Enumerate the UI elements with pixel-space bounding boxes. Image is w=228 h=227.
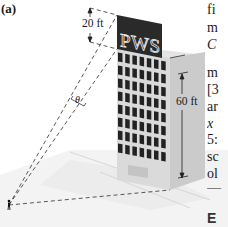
text-fragment: m xyxy=(207,66,218,80)
cropped-text-column: fi m C m [3 ar x 5: sc ol — E xyxy=(207,0,228,227)
text-fragment: ar xyxy=(207,100,218,114)
text-fragment: C xyxy=(207,38,216,52)
text-fragment: sc xyxy=(207,150,219,164)
building-side xyxy=(170,52,205,190)
dimension-label-60ft: 60 ft xyxy=(176,96,197,108)
text-fragment: m xyxy=(207,21,218,35)
figure-illustration: PWS xyxy=(0,0,228,227)
text-fragment: ol xyxy=(207,167,218,181)
building-billboard-figure: PWS xyxy=(0,0,228,227)
text-fragment: x xyxy=(207,117,213,131)
text-fragment: [3 xyxy=(207,83,219,97)
text-fragment: fi xyxy=(207,3,216,17)
text-rule: — xyxy=(207,181,221,195)
text-fragment: 5: xyxy=(207,133,218,147)
dimension-label-20ft: 20 ft xyxy=(82,18,103,30)
section-heading-fragment: E xyxy=(207,211,216,225)
angle-label-theta: θ xyxy=(75,95,80,105)
panel-label: (a) xyxy=(1,2,16,15)
